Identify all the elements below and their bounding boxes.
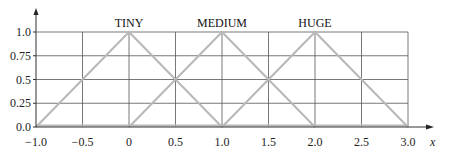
set-labels: TINYMEDIUMHUGE <box>115 16 332 30</box>
y-tick-label: 0.75 <box>10 49 31 63</box>
membership-chart: x −1.0−0.500.51.01.52.02.53.0 0.00.250.5… <box>0 0 450 160</box>
x-tick-label: 2.5 <box>354 135 369 149</box>
x-axis-label: x <box>429 135 436 149</box>
x-tick-label: 3.0 <box>401 135 416 149</box>
x-axis-arrow-icon <box>426 125 434 130</box>
set-label-medium: MEDIUM <box>197 16 247 30</box>
set-label-huge: HUGE <box>298 16 331 30</box>
x-tick-label: 1.0 <box>215 135 230 149</box>
y-tick-label: 0.0 <box>16 120 31 134</box>
y-axis-arrow-icon <box>34 8 39 15</box>
grid <box>36 32 408 127</box>
x-tick-label: 2.0 <box>308 135 323 149</box>
y-tick-labels: 0.00.250.50.751.0 <box>10 25 36 134</box>
x-tick-label: 0.5 <box>168 135 183 149</box>
x-tick-label: 1.5 <box>261 135 276 149</box>
set-label-tiny: TINY <box>115 16 144 30</box>
x-tick-label: 0 <box>126 135 132 149</box>
y-tick-label: 0.5 <box>16 73 31 87</box>
y-tick-label: 1.0 <box>16 25 31 39</box>
y-tick-label: 0.25 <box>10 96 31 110</box>
x-tick-label: −0.5 <box>72 135 94 149</box>
x-tick-labels: −1.0−0.500.51.01.52.02.53.0 <box>25 135 415 149</box>
x-tick-label: −1.0 <box>25 135 47 149</box>
